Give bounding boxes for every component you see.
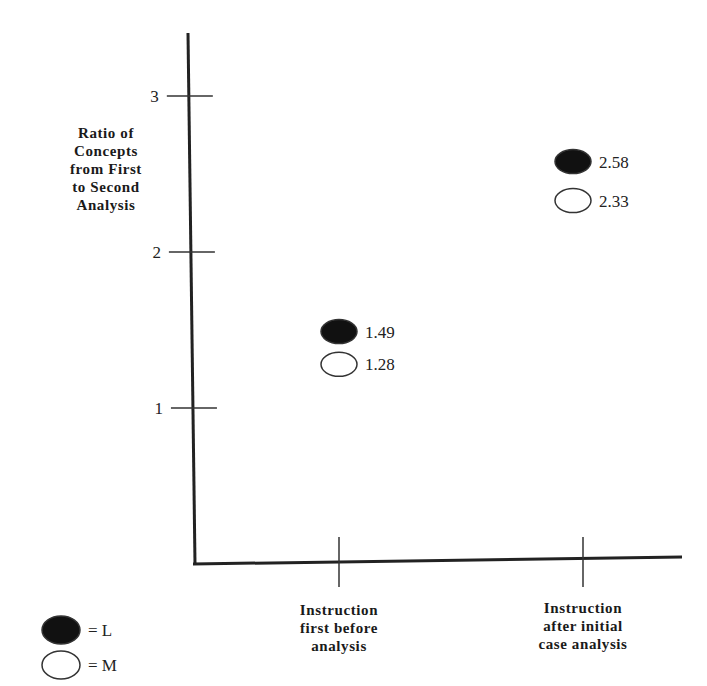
- y-axis-title: Ratio ofConceptsfrom Firstto SecondAnaly…: [52, 124, 160, 214]
- y-tick-label: 2: [152, 243, 161, 262]
- data-value-label: 2.58: [599, 153, 629, 172]
- data-point-L: 1.49: [321, 320, 395, 344]
- filled-ellipse-icon: [42, 616, 80, 644]
- data-value-label: 1.28: [365, 355, 395, 374]
- y-tick-label: 1: [154, 399, 163, 418]
- legend-label: = L: [88, 621, 112, 640]
- legend-entry-M: = M: [42, 651, 117, 679]
- data-point-M: 1.28: [321, 352, 395, 376]
- legend-label: = M: [88, 656, 117, 675]
- data-point-M: 2.33: [555, 189, 629, 213]
- x-category-label-2: Instructionafter initialcase analysis: [508, 599, 658, 653]
- legend-entry-L: = L: [42, 616, 112, 644]
- filled-ellipse-marker-icon: [555, 150, 591, 174]
- open-ellipse-icon: [42, 651, 80, 679]
- data-point-L: 2.58: [555, 150, 629, 174]
- x-category-label-1: Instructionfirst beforeanalysis: [264, 601, 414, 655]
- data-points: 1.492.581.282.33: [321, 150, 629, 377]
- data-value-label: 1.49: [365, 323, 395, 342]
- chart-canvas: 123 1.492.581.282.33 = L= M: [0, 0, 707, 686]
- y-ticks: 123: [150, 87, 217, 418]
- y-axis: [188, 33, 195, 564]
- open-ellipse-marker-icon: [321, 352, 357, 376]
- data-value-label: 2.33: [599, 192, 629, 211]
- y-tick-label: 3: [150, 87, 159, 106]
- x-axis: [193, 557, 682, 564]
- open-ellipse-marker-icon: [555, 189, 591, 213]
- legend: = L= M: [42, 616, 117, 679]
- filled-ellipse-marker-icon: [321, 320, 357, 344]
